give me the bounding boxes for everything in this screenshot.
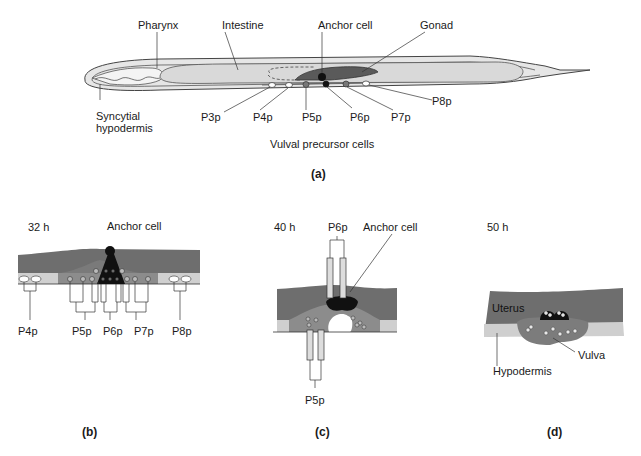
label-p4p-b: P4p	[18, 325, 38, 337]
panel-b-32h: 32 h Anchor cell P4p	[18, 220, 200, 439]
anchor-cell	[318, 73, 326, 81]
label-p5p-b: P5p	[72, 325, 92, 337]
label-p6p: P6p	[350, 111, 370, 123]
panel-label-b: (b)	[82, 425, 97, 439]
vpc-p8p	[363, 81, 370, 86]
label-uterus: Uterus	[492, 302, 525, 314]
panel-d-50h: 50 h Uterus Vulva Hypodermis (d)	[484, 221, 624, 439]
time-40h: 40 h	[274, 221, 295, 233]
label-p5p-c: P5p	[305, 394, 325, 406]
label-hypodermis-d: Hypodermis	[493, 365, 552, 377]
label-syncytial: Syncytial	[96, 110, 140, 122]
label-p4p: P4p	[253, 111, 273, 123]
vpc-p6p	[323, 81, 329, 87]
label-p7p-b: P7p	[134, 325, 154, 337]
label-anchor-cell-b: Anchor cell	[107, 220, 161, 232]
label-pharynx: Pharynx	[138, 19, 179, 31]
panel-label-c: (c)	[315, 425, 330, 439]
label-p3p: P3p	[201, 111, 221, 123]
time-50h: 50 h	[487, 221, 508, 233]
label-p6p-b: P6p	[103, 325, 123, 337]
label-p6p-c: P6p	[328, 221, 348, 233]
panel-a-worm-diagram: Pharynx Intestine Anchor cell Gonad Sync…	[85, 19, 590, 181]
vpc-p7p	[343, 81, 349, 87]
panel-c-40h: 40 h P6p Anchor cell P5p (c)	[273, 221, 417, 439]
vpc-p3p	[269, 83, 276, 88]
vpc-p4p	[286, 83, 293, 88]
label-p8p: P8p	[432, 95, 452, 107]
label-intestine: Intestine	[222, 19, 264, 31]
label-gonad: Gonad	[420, 19, 453, 31]
vulval-development-figure: Pharynx Intestine Anchor cell Gonad Sync…	[0, 0, 641, 456]
label-vulva: Vulva	[578, 349, 606, 361]
label-p5p: P5p	[302, 111, 322, 123]
label-p8p-b: P8p	[172, 325, 192, 337]
label-hypodermis: hypodermis	[96, 122, 153, 134]
time-32h: 32 h	[28, 221, 49, 233]
panel-label-a: (a)	[311, 167, 326, 181]
panel-label-d: (d)	[547, 425, 562, 439]
caption-vulval-precursor-cells: Vulval precursor cells	[270, 138, 375, 150]
vpc-p5p	[303, 82, 309, 88]
label-anchor-cell-c: Anchor cell	[363, 221, 417, 233]
label-p7p: P7p	[391, 111, 411, 123]
label-anchor-cell: Anchor cell	[318, 19, 372, 31]
